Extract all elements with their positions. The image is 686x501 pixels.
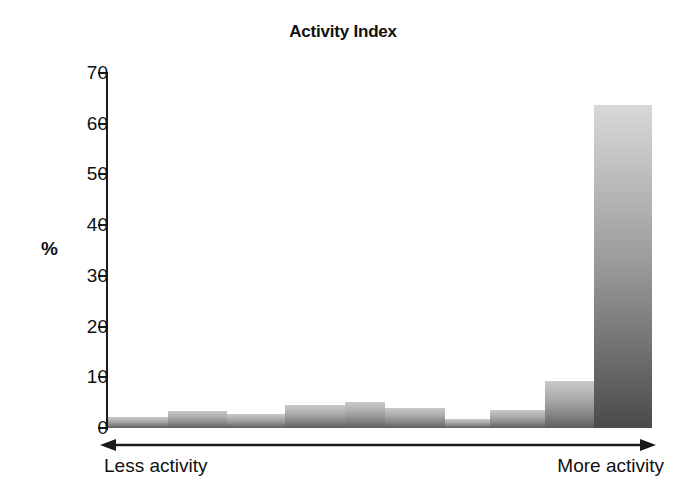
y-axis-tick-label: 10 — [68, 367, 108, 386]
chart-figure: Activity Index % 706050403020100 Less ac… — [0, 0, 686, 501]
y-axis-tick-label: 50 — [68, 164, 108, 183]
bar — [227, 414, 285, 428]
bar — [594, 105, 652, 428]
bar — [108, 417, 168, 428]
less-activity-label: Less activity — [104, 455, 207, 477]
y-axis-tick-label: 70 — [68, 63, 108, 82]
bar — [168, 411, 227, 428]
bar — [285, 405, 345, 428]
bar — [345, 402, 385, 428]
bar — [385, 408, 445, 428]
bar — [545, 381, 594, 428]
y-axis-tick-label: 40 — [68, 215, 108, 234]
y-axis-title: % — [41, 238, 58, 260]
bar — [445, 419, 490, 428]
chart-title: Activity Index — [0, 22, 686, 42]
plot-area — [108, 73, 652, 428]
more-activity-label: More activity — [557, 455, 664, 477]
y-axis-tick-label: 30 — [68, 266, 108, 285]
bar — [490, 410, 545, 428]
y-axis-tick-label: 20 — [68, 317, 108, 336]
y-axis-tick-label: 60 — [68, 114, 108, 133]
activity-axis-arrow-icon — [98, 434, 658, 456]
